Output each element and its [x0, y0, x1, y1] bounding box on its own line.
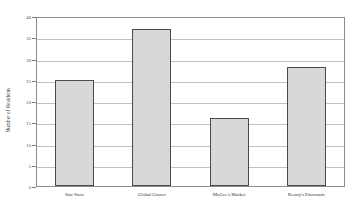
- y-tick-label: 25: [16, 78, 31, 83]
- y-tick-mark: [32, 187, 36, 188]
- y-tick-label: 30: [16, 57, 31, 62]
- y-tick-label: 20: [16, 100, 31, 105]
- bar: [132, 29, 171, 186]
- y-tick-label: 40: [16, 15, 31, 20]
- y-tick-label: 5: [16, 163, 31, 168]
- x-axis-labels: Star StoreGlobal GrocerMcGee's MarketKen…: [36, 191, 345, 205]
- bar-chart: Number of Residents 0510152025303540 Sta…: [0, 0, 358, 215]
- y-axis-title: Number of Residents: [2, 58, 14, 162]
- bar: [55, 80, 94, 186]
- x-axis-label: McGee's Market: [191, 191, 268, 198]
- y-tick-label: 35: [16, 36, 31, 41]
- x-axis-label: Global Grocer: [113, 191, 190, 198]
- x-axis-label: Star Store: [36, 191, 113, 198]
- y-tick-label: 10: [16, 142, 31, 147]
- y-tick-label: 15: [16, 121, 31, 126]
- x-axis-label: Kenny's Discounts: [268, 191, 345, 198]
- bars-group: [36, 17, 345, 187]
- y-tick-label: 0: [16, 185, 31, 190]
- bar: [210, 118, 249, 186]
- bar: [287, 67, 326, 186]
